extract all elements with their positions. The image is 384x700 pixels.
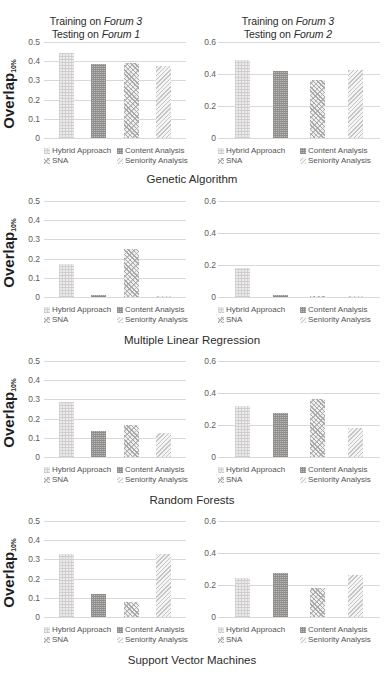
row-caption: Multiple Linear Regression xyxy=(0,334,384,346)
legend-item[interactable]: Seniority Analysis xyxy=(117,635,188,644)
y-tick-label: 0.4 xyxy=(28,215,40,225)
bar-sna xyxy=(310,80,325,138)
legend-item[interactable]: Hybrid Approach xyxy=(44,625,115,634)
legend-item[interactable]: Seniority Analysis xyxy=(300,315,380,324)
legend-item[interactable]: SNA xyxy=(218,315,298,324)
legend-item[interactable]: SNA xyxy=(44,475,115,484)
y-axis-label: Overlap10% xyxy=(0,207,18,299)
chart-legend: Hybrid ApproachContent AnalysisSNASenior… xyxy=(44,146,188,165)
legend-item[interactable]: Seniority Analysis xyxy=(117,315,188,324)
y-tick-label: 0.3 xyxy=(28,75,40,85)
legend-item[interactable]: Seniority Analysis xyxy=(300,475,380,484)
legend-item[interactable]: SNA xyxy=(218,635,298,644)
legend-swatch-icon xyxy=(300,148,306,154)
legend-label: SNA xyxy=(52,475,68,484)
legend-item[interactable]: Hybrid Approach xyxy=(44,465,115,474)
y-tick-label: 0.2 xyxy=(204,420,216,430)
y-tick-label: 0.2 xyxy=(204,580,216,590)
legend-item[interactable]: Seniority Analysis xyxy=(300,156,380,165)
legend-item[interactable]: SNA xyxy=(218,156,298,165)
legend-item[interactable]: Content Analysis xyxy=(300,465,380,474)
plot-area: Overlap10% 0.60.40.20 Hybrid ApproachCon… xyxy=(192,201,384,305)
legend-item[interactable]: Content Analysis xyxy=(300,625,380,634)
y-tick-label: 0 xyxy=(35,452,40,462)
legend-item[interactable]: Content Analysis xyxy=(117,625,188,634)
legend-item[interactable]: Seniority Analysis xyxy=(117,156,188,165)
legend-item[interactable]: Hybrid Approach xyxy=(218,305,298,314)
legend-label: Seniority Analysis xyxy=(125,475,188,484)
legend-label: Seniority Analysis xyxy=(308,156,371,165)
bar-slot xyxy=(148,201,181,297)
legend-swatch-icon xyxy=(218,477,224,483)
legend-swatch-icon xyxy=(300,317,306,323)
legend-swatch-icon xyxy=(218,627,224,633)
bar-content xyxy=(91,64,106,138)
legend-label: SNA xyxy=(226,156,242,165)
legend-swatch-icon xyxy=(218,467,224,473)
legend-label: Content Analysis xyxy=(308,465,368,474)
plot-area: Overlap10% 0.50.40.30.20.10 Hybrid Appro… xyxy=(0,361,192,465)
row-caption: Support Vector Machines xyxy=(0,654,384,666)
y-tick-label: 0.1 xyxy=(28,273,40,283)
legend-item[interactable]: Hybrid Approach xyxy=(44,305,115,314)
plot-area: Overlap10% 0.50.40.30.20.10 Hybrid Appro… xyxy=(0,42,192,146)
legend-swatch-icon xyxy=(117,317,123,323)
y-tick-label: 0.2 xyxy=(28,414,40,424)
legend-item[interactable]: Content Analysis xyxy=(117,305,188,314)
legend-item[interactable]: SNA xyxy=(44,156,115,165)
legend-swatch-icon xyxy=(117,467,123,473)
legend-item[interactable]: SNA xyxy=(44,635,115,644)
legend-swatch-icon xyxy=(117,148,123,154)
y-tick-label: 0.1 xyxy=(28,593,40,603)
bar-group xyxy=(218,42,380,138)
legend-item[interactable]: SNA xyxy=(218,475,298,484)
figure-sheet: Training on Forum 3Testing on Forum 1 Ov… xyxy=(0,0,384,700)
y-axis-ticks: 0.60.40.20 xyxy=(194,42,218,142)
legend-item[interactable]: SNA xyxy=(44,315,115,324)
y-tick-label: 0 xyxy=(35,612,40,622)
legend-label: Hybrid Approach xyxy=(52,305,111,314)
legend-swatch-icon xyxy=(44,477,50,483)
y-tick-label: 0 xyxy=(35,133,40,143)
legend-label: Hybrid Approach xyxy=(226,625,285,634)
y-tick-label: 0.4 xyxy=(204,69,216,79)
bar-slot xyxy=(299,361,337,457)
legend-swatch-icon xyxy=(218,158,224,164)
legend-label: Seniority Analysis xyxy=(125,315,188,324)
legend-item[interactable]: Hybrid Approach xyxy=(44,146,115,155)
legend-item[interactable]: Seniority Analysis xyxy=(300,635,380,644)
bar-seniority xyxy=(156,66,171,138)
y-tick-label: 0.6 xyxy=(204,37,216,47)
legend-label: Hybrid Approach xyxy=(52,465,111,474)
bar-content xyxy=(273,413,288,457)
legend-item[interactable]: Content Analysis xyxy=(117,146,188,155)
bar-slot xyxy=(299,521,337,617)
bar-slot xyxy=(148,42,181,138)
bar-sna xyxy=(124,425,139,457)
bar-group xyxy=(44,201,186,297)
legend-item[interactable]: Seniority Analysis xyxy=(117,475,188,484)
legend-label: Content Analysis xyxy=(125,465,185,474)
legend-item[interactable]: Hybrid Approach xyxy=(218,146,298,155)
legend-item[interactable]: Content Analysis xyxy=(300,305,380,314)
figure-caption xyxy=(8,690,376,700)
y-tick-label: 0.2 xyxy=(28,95,40,105)
bar-slot xyxy=(224,521,262,617)
legend-item[interactable]: Content Analysis xyxy=(300,146,380,155)
bar-hybrid xyxy=(59,53,74,138)
legend-item[interactable]: Hybrid Approach xyxy=(218,465,298,474)
legend-swatch-icon xyxy=(44,158,50,164)
bar-content xyxy=(91,295,106,297)
legend-label: Seniority Analysis xyxy=(308,475,371,484)
legend-label: Hybrid Approach xyxy=(226,305,285,314)
legend-swatch-icon xyxy=(117,627,123,633)
legend-swatch-icon xyxy=(44,637,50,643)
bar-slot xyxy=(50,201,83,297)
chart-row: Overlap10% 0.50.40.30.20.10 Hybrid Appro… xyxy=(0,355,384,515)
y-tick-label: 0.3 xyxy=(28,554,40,564)
legend-item[interactable]: Hybrid Approach xyxy=(218,625,298,634)
legend-label: Content Analysis xyxy=(125,146,185,155)
y-tick-label: 0.5 xyxy=(28,196,40,206)
legend-item[interactable]: Content Analysis xyxy=(117,465,188,474)
y-tick-label: 0 xyxy=(211,133,216,143)
